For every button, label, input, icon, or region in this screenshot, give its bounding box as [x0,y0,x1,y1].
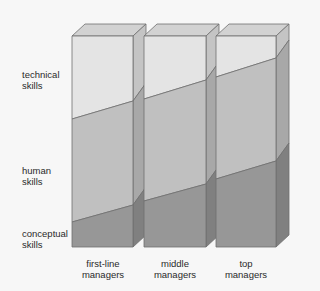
top-side-conceptual [276,143,289,247]
label-technical-skills: technical skills [22,69,60,91]
label-human-skills: human skills [22,165,51,187]
label-line: human [22,165,51,176]
category-line: middle [140,258,210,269]
top-side-human [276,40,289,161]
top-front-human [216,58,276,179]
category-first-line-managers: first-line managers [68,258,138,280]
label-line: conceptual [22,228,68,239]
label-conceptual-skills: conceptual skills [22,228,68,250]
label-line: skills [22,176,51,187]
category-line: first-line [68,258,138,269]
category-line: managers [211,269,281,280]
label-line: skills [22,239,68,250]
category-line: managers [68,269,138,280]
middle-front-human [144,80,206,201]
category-line: managers [140,269,210,280]
category-top-managers: top managers [211,258,281,280]
label-line: technical [22,69,60,80]
category-line: top [211,258,281,269]
category-middle-managers: middle managers [140,258,210,280]
first-line-front-human [72,101,133,222]
label-line: skills [22,80,60,91]
